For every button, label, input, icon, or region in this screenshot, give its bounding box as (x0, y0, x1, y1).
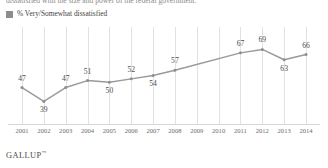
data-label: 63 (280, 65, 288, 73)
data-label: 47 (62, 75, 70, 83)
data-label: 54 (149, 80, 157, 88)
data-point (42, 100, 45, 103)
x-axis-tick: 2004 (81, 127, 94, 135)
gallup-logo: GALLUP™ (6, 150, 46, 160)
data-point (305, 53, 308, 56)
plot-area: 473947515052545767696366 (8, 27, 320, 125)
data-point (283, 58, 286, 61)
gallup-wordmark: GALLUP (6, 151, 41, 160)
data-point (261, 48, 264, 51)
data-label: 52 (127, 66, 135, 74)
x-axis-tick: 2010 (212, 127, 225, 135)
data-label: 50 (106, 87, 114, 95)
x-axis-tick: 2001 (15, 127, 28, 135)
x-axis-tick: 2002 (37, 127, 50, 135)
trademark-icon: ™ (41, 150, 46, 155)
data-label: 47 (18, 75, 26, 83)
x-axis-tick: 2006 (125, 127, 138, 135)
data-label: 57 (171, 57, 179, 65)
series-line (8, 27, 320, 125)
legend-swatch-icon (6, 11, 13, 18)
data-point (239, 51, 242, 54)
data-label: 67 (237, 40, 245, 48)
data-point (86, 79, 89, 82)
headline-text: dissatisfied with the size and power of … (6, 0, 306, 5)
data-point (64, 86, 67, 89)
legend-label: % Very/Somewhat dissatisfied (17, 10, 107, 18)
data-label: 39 (40, 106, 48, 114)
data-point (173, 69, 176, 72)
x-axis-tick: 2012 (256, 127, 269, 135)
data-label: 69 (259, 36, 267, 44)
x-axis-labels: 2001200220032004200520062007200820092010… (8, 127, 320, 138)
x-axis-tick: 2014 (299, 127, 312, 135)
gallup-line-chart: dissatisfied with the size and power of … (0, 0, 328, 168)
data-point (108, 81, 111, 84)
data-label: 66 (302, 42, 310, 50)
x-axis-tick: 2005 (103, 127, 116, 135)
x-axis-tick: 2008 (168, 127, 181, 135)
data-point (152, 74, 155, 77)
chart-legend: % Very/Somewhat dissatisfied (6, 9, 107, 19)
x-axis-tick: 2011 (234, 127, 247, 135)
x-axis-tick: 2007 (146, 127, 159, 135)
data-point (21, 86, 24, 89)
x-axis-tick: 2013 (278, 127, 291, 135)
data-point (130, 77, 133, 80)
x-axis-tick: 2009 (190, 127, 203, 135)
data-label: 51 (84, 68, 92, 76)
x-axis-tick: 2003 (59, 127, 72, 135)
